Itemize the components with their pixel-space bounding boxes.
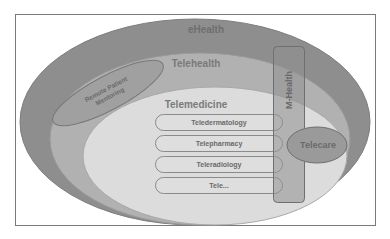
- ehealth-diagram: eHealth Telehealth Telemedicine Remote P…: [0, 0, 390, 239]
- specialty-label: Teleradiology: [197, 161, 242, 169]
- mhealth-rect: [274, 47, 305, 203]
- telecare-label: Telecare: [300, 140, 336, 150]
- ehealth-label: eHealth: [188, 24, 224, 35]
- specialty-label: Tele...: [209, 182, 228, 189]
- specialty-label: Teledermatology: [191, 119, 247, 127]
- specialty-label: Telepharmacy: [196, 140, 243, 148]
- mhealth-label: M-Health: [284, 71, 294, 109]
- telehealth-label: Telehealth: [172, 58, 221, 69]
- telemedicine-label: Telemedicine: [165, 99, 228, 110]
